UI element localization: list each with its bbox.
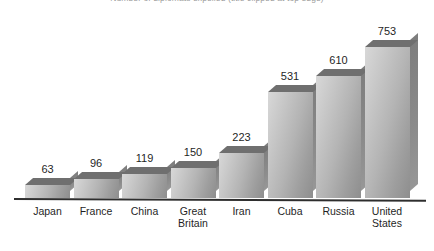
bar-chart: Number of diplomats expelled (title clip… [0, 0, 434, 251]
bar-value-label: 96 [74, 158, 119, 169]
bar-japan: 63 [25, 185, 70, 198]
bar-column [268, 92, 313, 198]
bar-column [25, 185, 70, 198]
bar-front-face [74, 179, 119, 198]
bar-china: 119 [122, 174, 167, 198]
category-label-line: Britain [165, 217, 222, 229]
bar-front-face [122, 174, 167, 198]
bar-united-states: 753 [365, 47, 410, 198]
category-label-united-states: UnitedStates [359, 205, 416, 229]
bar-front-face [316, 76, 361, 198]
bar-value-label: 610 [316, 55, 361, 66]
bar-front-face [219, 153, 264, 198]
bar-front-face [268, 92, 313, 198]
category-label-line: States [359, 217, 416, 229]
bar-column [171, 168, 216, 198]
bar-top-face [316, 69, 369, 76]
bar-top-face [74, 172, 127, 179]
bar-top-face [219, 146, 272, 153]
bar-column [316, 76, 361, 198]
category-label-line: United [359, 205, 416, 217]
bar-value-label: 753 [365, 26, 410, 37]
bar-great-britain: 150 [171, 168, 216, 198]
bar-value-label: 119 [122, 153, 167, 164]
bar-column [365, 47, 410, 198]
bar-value-label: 531 [268, 71, 313, 82]
bar-column [122, 174, 167, 198]
bar-value-label: 63 [25, 164, 70, 175]
bar-value-label: 223 [219, 132, 264, 143]
bar-side-face [410, 33, 418, 191]
bar-front-face [171, 168, 216, 198]
bar-value-label: 150 [171, 147, 216, 158]
bar-top-face [171, 161, 224, 168]
bar-russia: 610 [316, 76, 361, 198]
bar-iran: 223 [219, 153, 264, 198]
bar-top-face [25, 178, 78, 185]
bar-top-face [268, 85, 321, 92]
bar-france: 96 [74, 179, 119, 198]
bar-column [219, 153, 264, 198]
bar-front-face [365, 47, 410, 198]
bar-column [74, 179, 119, 198]
bar-top-face [365, 40, 418, 47]
bar-top-face [122, 167, 175, 174]
bar-front-face [25, 185, 70, 198]
bar-cuba: 531 [268, 92, 313, 198]
